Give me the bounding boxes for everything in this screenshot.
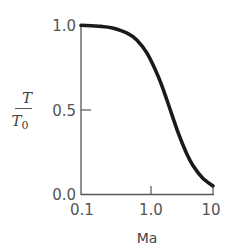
data-line (81, 25, 213, 186)
x-tick-label-10: 10 (201, 201, 220, 219)
x-tick-label-1.0: 1.0 (139, 201, 163, 219)
y-tick-label-0.5: 0.5 (52, 102, 76, 120)
x-tick-label-0.1: 0.1 (70, 201, 94, 219)
chart: 1.0 0.5 0.0 0.1 1.0 10 Ma T T0 (0, 0, 231, 248)
y-tick-label-1.0: 1.0 (52, 17, 76, 35)
x-axis-label: Ma (137, 230, 158, 246)
y-axis-label-numerator: T (22, 89, 33, 107)
y-axis-label-denominator: T0 (11, 112, 28, 132)
